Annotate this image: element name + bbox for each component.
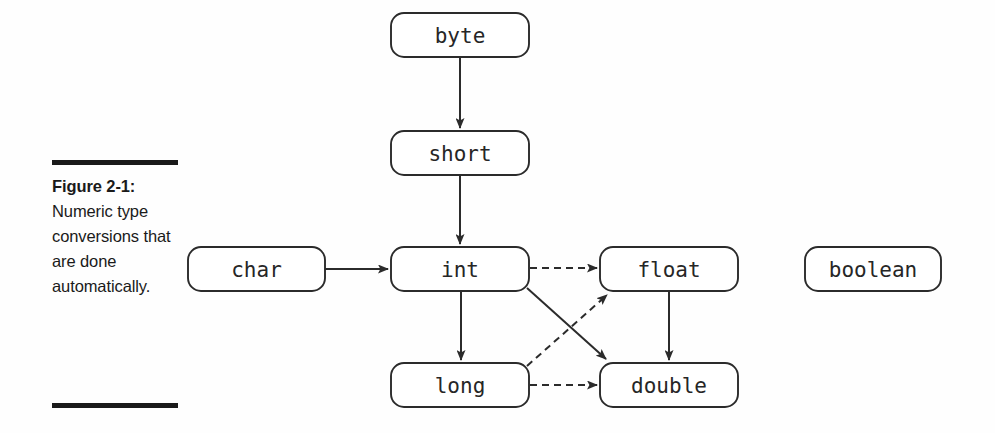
node-label-float: float bbox=[637, 258, 700, 282]
node-long[interactable]: long bbox=[391, 363, 529, 407]
edge-layer bbox=[325, 57, 669, 385]
node-label-int: int bbox=[441, 258, 479, 282]
node-float[interactable]: float bbox=[600, 247, 738, 291]
node-label-byte: byte bbox=[435, 24, 486, 48]
node-label-short: short bbox=[428, 142, 491, 166]
node-label-boolean: boolean bbox=[829, 258, 918, 282]
node-label-char: char bbox=[231, 258, 282, 282]
edge-int-to-double bbox=[527, 288, 606, 359]
type-conversion-diagram: byte short char int float long double bbox=[0, 0, 995, 433]
node-short[interactable]: short bbox=[391, 131, 529, 175]
node-boolean[interactable]: boolean bbox=[805, 247, 941, 291]
figure-page: Figure 2-1: Numeric type conver­sions th… bbox=[0, 0, 995, 433]
edge-long-to-float bbox=[527, 295, 607, 366]
node-int[interactable]: int bbox=[391, 247, 529, 291]
node-double[interactable]: double bbox=[600, 363, 738, 407]
node-label-long: long bbox=[435, 374, 486, 398]
node-byte[interactable]: byte bbox=[391, 13, 529, 57]
node-char[interactable]: char bbox=[188, 247, 325, 291]
node-label-double: double bbox=[631, 374, 707, 398]
